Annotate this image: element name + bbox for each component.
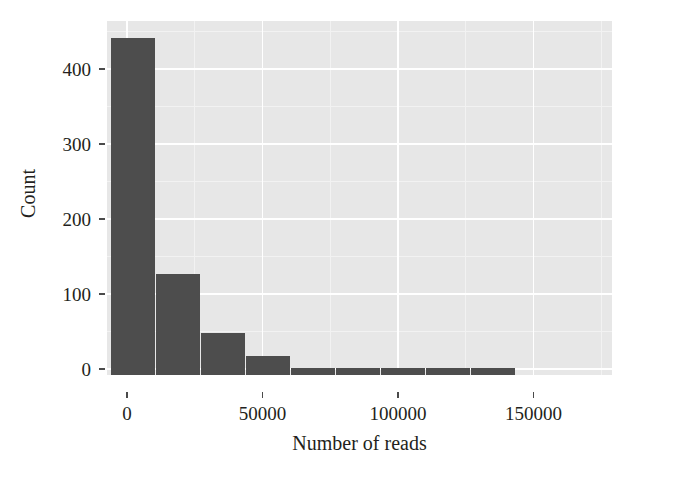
- x-tick-mark: [262, 392, 264, 398]
- y-tick-mark: [99, 143, 105, 145]
- gridline-minor-y-150: [107, 256, 612, 257]
- x-tick-label: 100000: [338, 404, 458, 423]
- y-tick-mark: [99, 68, 105, 70]
- histogram-bar: [471, 368, 515, 375]
- gridline-x-50000: [262, 21, 264, 375]
- x-tick-mark: [533, 392, 535, 398]
- y-tick-mark: [99, 218, 105, 220]
- histogram-bar: [201, 333, 245, 375]
- histogram-bar: [156, 274, 200, 375]
- gridline-x-150000: [533, 21, 535, 375]
- gridline-minor-x-75000: [330, 21, 331, 375]
- plot-area: [107, 21, 612, 375]
- histogram-bar: [246, 356, 290, 376]
- histogram-bar: [291, 368, 335, 375]
- gridline-y-200: [107, 218, 612, 220]
- y-tick-label: 100: [11, 285, 91, 304]
- x-axis-label: Number of reads: [107, 432, 612, 455]
- gridline-minor-x-175000: [601, 21, 602, 375]
- y-tick-mark: [99, 368, 105, 370]
- y-axis-label: Count: [17, 144, 40, 244]
- y-tick-label: 0: [11, 360, 91, 379]
- x-tick-mark: [126, 392, 128, 398]
- gridline-y-400: [107, 68, 612, 70]
- gridline-y-300: [107, 143, 612, 145]
- histogram-figure: 0100200300400 050000100000150000 Number …: [0, 0, 676, 478]
- x-tick-label: 50000: [203, 404, 323, 423]
- histogram-bar: [336, 368, 380, 375]
- y-tick-label: 400: [11, 60, 91, 79]
- gridline-minor-y-450: [107, 31, 612, 32]
- gridline-minor-y-350: [107, 106, 612, 107]
- histogram-bar: [381, 368, 425, 375]
- gridline-minor-x-125000: [465, 21, 466, 375]
- x-tick-label: 150000: [473, 404, 593, 423]
- gridline-minor-y-250: [107, 181, 612, 182]
- histogram-bar: [111, 38, 155, 375]
- gridline-x-100000: [397, 21, 399, 375]
- y-tick-mark: [99, 293, 105, 295]
- x-tick-mark: [397, 392, 399, 398]
- histogram-bar: [426, 368, 470, 375]
- x-tick-label: 0: [67, 404, 187, 423]
